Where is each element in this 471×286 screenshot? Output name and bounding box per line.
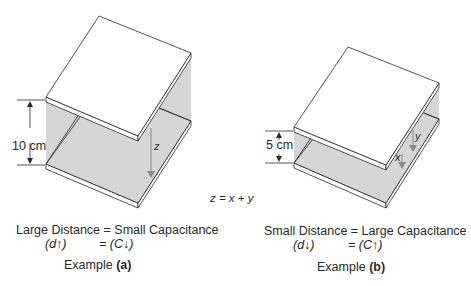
example-b-title: Example (b) bbox=[317, 261, 385, 274]
capacitor-b bbox=[265, 47, 439, 208]
example-b-id: (b) bbox=[369, 260, 385, 274]
caption-a-line1: Large Distance = Small Capacitance bbox=[16, 224, 219, 237]
caption-a-c: = (C↓) bbox=[99, 238, 133, 251]
caption-b-c: = (C↑) bbox=[348, 239, 382, 252]
capacitor-diagram bbox=[0, 0, 471, 286]
example-b-word: Example bbox=[317, 260, 366, 274]
caption-b-line1: Small Distance = Large Capacitance bbox=[264, 225, 467, 238]
caption-a-d: (d↑) bbox=[45, 238, 67, 251]
example-a-id: (a) bbox=[116, 258, 131, 272]
caption-b-d: (d↓) bbox=[293, 239, 315, 252]
dimension-a bbox=[17, 100, 45, 165]
capacitor-a bbox=[17, 16, 191, 208]
y-label: y bbox=[415, 131, 421, 142]
dimension-label-b: 5 cm bbox=[266, 139, 293, 152]
x-label: x bbox=[395, 152, 401, 163]
equation: z = x + y bbox=[210, 193, 253, 205]
z-label: z bbox=[154, 141, 160, 152]
dimension-label-a: 10 cm bbox=[12, 140, 46, 153]
example-a-title: Example (a) bbox=[64, 259, 131, 272]
example-a-word: Example bbox=[64, 258, 113, 272]
